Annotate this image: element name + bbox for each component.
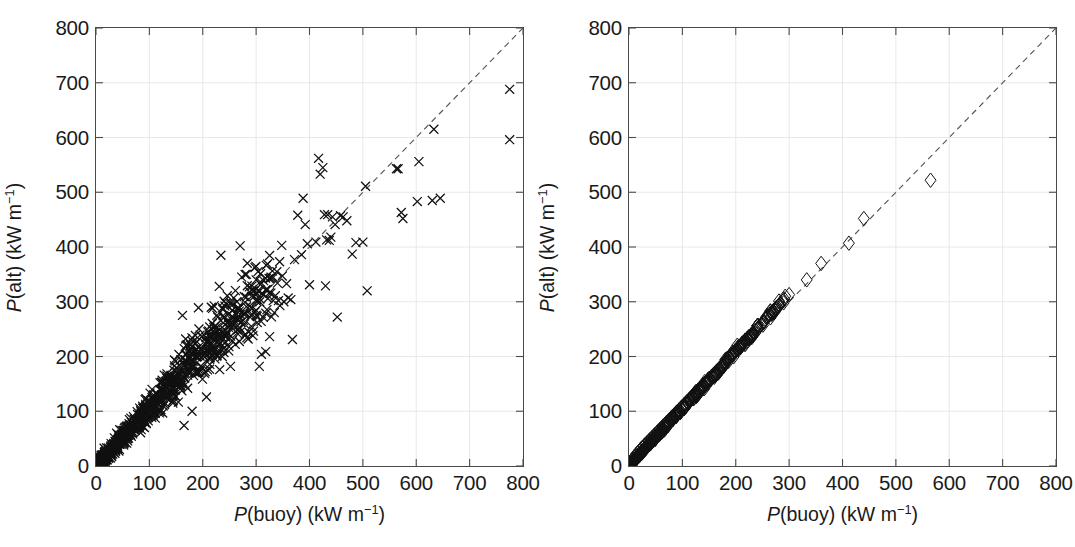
y-axis-label-close-right: )	[537, 182, 559, 189]
y-tick-label: 700	[55, 71, 89, 95]
x-tick-label: 700	[453, 471, 487, 495]
y-tick-label: 800	[588, 16, 622, 40]
y-axis-label-units-right: (alt) (kW m	[537, 203, 559, 298]
figure-scatter-comparison: P(alt) (kW m−1) 010020030040050060070080…	[0, 0, 1075, 547]
y-tick-label: 400	[55, 235, 89, 259]
y-tick-label: 600	[588, 126, 622, 150]
y-tick-label: 0	[78, 454, 89, 478]
y-axis-label-symbol-left: P	[4, 299, 26, 312]
y-tick-label: 700	[588, 71, 622, 95]
y-tick-label: 200	[55, 345, 89, 369]
x-axis-label-units-right: (buoy) (kW m	[780, 503, 897, 525]
x-axis-label-right: P(buoy) (kW m−1)	[628, 503, 1057, 526]
x-axis-label-symbol-right: P	[767, 503, 780, 525]
x-tick-label: 400	[293, 471, 327, 495]
y-tick-label: 100	[55, 399, 89, 423]
plot-area-right[interactable]: 0100200300400500600700800010020030040050…	[628, 27, 1057, 467]
x-tick-label: 500	[879, 471, 913, 495]
x-tick-label: 300	[772, 471, 806, 495]
panel-right: P(alt) (kW m−1) 010020030040050060070080…	[533, 0, 1070, 547]
x-tick-label: 700	[986, 471, 1020, 495]
y-tick-label: 200	[588, 345, 622, 369]
x-axis-label-exponent-left: −1	[364, 502, 379, 517]
x-tick-label: 100	[133, 471, 167, 495]
x-axis-label-symbol-left: P	[234, 503, 247, 525]
x-tick-label: 300	[239, 471, 273, 495]
x-tick-label: 100	[666, 471, 700, 495]
panel-left: P(alt) (kW m−1) 010020030040050060070080…	[0, 0, 537, 547]
y-tick-label: 400	[588, 235, 622, 259]
x-tick-label: 600	[399, 471, 433, 495]
x-axis-label-exponent-right: −1	[897, 502, 912, 517]
y-axis-label-exponent-right: −1	[535, 189, 550, 204]
y-axis-label-units-left: (alt) (kW m	[4, 203, 26, 298]
y-tick-label: 300	[588, 290, 622, 314]
plot-canvas-left	[96, 28, 523, 466]
plot-canvas-right	[629, 28, 1056, 466]
y-tick-label: 0	[611, 454, 622, 478]
x-tick-label: 800	[1039, 471, 1073, 495]
x-tick-label: 600	[932, 471, 966, 495]
x-axis-label-close-left: )	[379, 503, 386, 525]
y-tick-label: 600	[55, 126, 89, 150]
x-axis-label-units-left: (buoy) (kW m	[247, 503, 364, 525]
y-axis-label-right: P(alt) (kW m−1)	[533, 27, 563, 467]
y-tick-label: 100	[588, 399, 622, 423]
plot-area-left[interactable]: 0100200300400500600700800010020030040050…	[95, 27, 524, 467]
y-tick-label: 800	[55, 16, 89, 40]
x-tick-label: 0	[90, 471, 101, 495]
y-tick-label: 500	[55, 180, 89, 204]
y-axis-label-exponent-left: −1	[2, 189, 17, 204]
x-tick-label: 500	[346, 471, 380, 495]
y-tick-label: 500	[588, 180, 622, 204]
x-tick-label: 200	[719, 471, 753, 495]
x-axis-label-left: P(buoy) (kW m−1)	[95, 503, 524, 526]
y-axis-label-close-left: )	[4, 182, 26, 189]
y-axis-label-symbol-right: P	[537, 299, 559, 312]
x-tick-label: 0	[623, 471, 634, 495]
y-tick-label: 300	[55, 290, 89, 314]
y-axis-label-left: P(alt) (kW m−1)	[0, 27, 30, 467]
x-axis-label-close-right: )	[912, 503, 919, 525]
x-tick-label: 400	[826, 471, 860, 495]
x-tick-label: 200	[186, 471, 220, 495]
